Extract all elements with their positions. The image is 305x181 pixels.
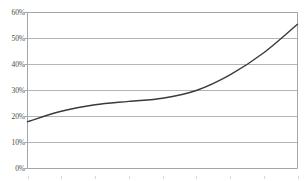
y-axis-label-30: 30% — [1, 87, 25, 95]
y-axis-label-60: 60% — [1, 9, 25, 17]
chart-plot-area — [0, 0, 305, 181]
y-axis-label-0: 0% — [1, 165, 25, 173]
y-axis-label-20: 20% — [1, 113, 25, 121]
y-axis-label-40: 40% — [1, 61, 25, 69]
y-axis-tick-labels: 60% 50% 40% 30% 20% 10% 0% — [0, 0, 25, 181]
y-axis-label-10: 10% — [1, 139, 25, 147]
line-chart: 60% 50% 40% 30% 20% 10% 0% — [0, 0, 305, 181]
y-axis-label-50: 50% — [1, 35, 25, 43]
